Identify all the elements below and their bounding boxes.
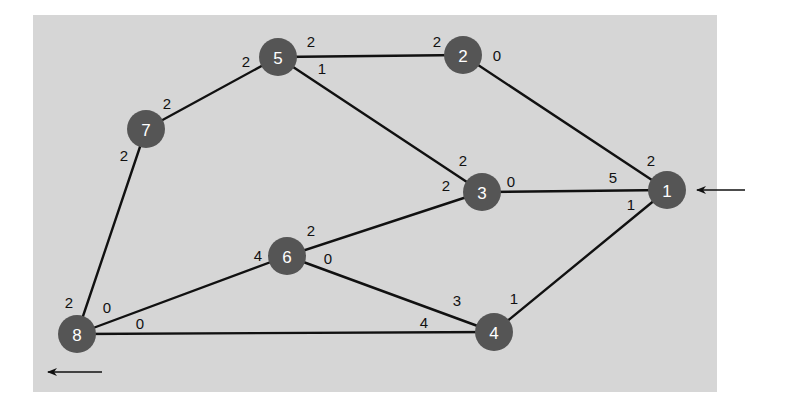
edge-6-4: [287, 256, 494, 332]
node-5: 5: [259, 38, 297, 76]
edge-label-3-1-near-3: 0: [507, 173, 515, 190]
edge-3-1: [482, 190, 667, 192]
node-label: 8: [72, 326, 81, 345]
node-8: 8: [58, 315, 96, 353]
edge-5-3: [278, 57, 482, 192]
diagram-canvas: 12345678 2222120222052211400304: [0, 0, 810, 410]
edge-5-7: [146, 57, 278, 129]
node-2: 2: [444, 36, 482, 74]
edge-label-1-4-near-1: 1: [627, 196, 635, 213]
node-7: 7: [127, 110, 165, 148]
node-label: 4: [489, 324, 498, 343]
edge-8-4: [77, 332, 494, 334]
edge-label-3-1-near-1: 5: [609, 169, 617, 186]
edge-label-7-8-near-8: 2: [65, 294, 73, 311]
edge-label-5-3-near-3: 2: [459, 152, 467, 169]
edge-label-5-7-near-5: 2: [242, 53, 250, 70]
edge-label-2-1-near-2: 0: [493, 47, 501, 64]
network-graph: 12345678 2222120222052211400304: [0, 0, 810, 410]
edge-7-8: [77, 129, 146, 334]
node-label: 1: [662, 182, 671, 201]
edge-label-6-4-near-4: 3: [453, 292, 461, 309]
node-label: 6: [282, 248, 291, 267]
edge-5-2: [278, 55, 463, 57]
edge-label-2-1-near-1: 2: [647, 152, 655, 169]
node-label: 7: [141, 121, 150, 140]
node-4: 4: [475, 313, 513, 351]
edge-label-6-8-near-8: 0: [103, 299, 111, 316]
node-label: 2: [458, 47, 467, 66]
edge-label-5-2-near-2: 2: [433, 33, 441, 50]
edge-label-8-4-near-4: 4: [420, 314, 428, 331]
edge-label-5-7-near-7: 2: [163, 95, 171, 112]
edge-1-4: [494, 190, 667, 332]
arrows-layer: [48, 190, 745, 372]
edge-label-6-4-near-6: 0: [324, 250, 332, 267]
edge-2-1: [463, 55, 667, 190]
node-label: 5: [273, 49, 282, 68]
edge-label-3-6-near-6: 2: [307, 222, 315, 239]
node-3: 3: [463, 173, 501, 211]
edge-label-3-6-near-3: 2: [442, 177, 450, 194]
edge-6-8: [77, 256, 287, 334]
node-1: 1: [648, 171, 686, 209]
node-label: 3: [477, 184, 486, 203]
edge-label-5-3-near-5: 1: [318, 60, 326, 77]
edge-label-1-4-near-4: 1: [510, 290, 518, 307]
edge-label-6-8-near-6: 4: [254, 247, 262, 264]
edge-label-7-8-near-7: 2: [120, 147, 128, 164]
edge-label-5-2-near-5: 2: [307, 33, 315, 50]
edge-labels-layer: 2222120222052211400304: [65, 33, 655, 332]
node-6: 6: [268, 237, 306, 275]
edge-label-8-4-near-8: 0: [136, 315, 144, 332]
edge-3-6: [287, 192, 482, 256]
